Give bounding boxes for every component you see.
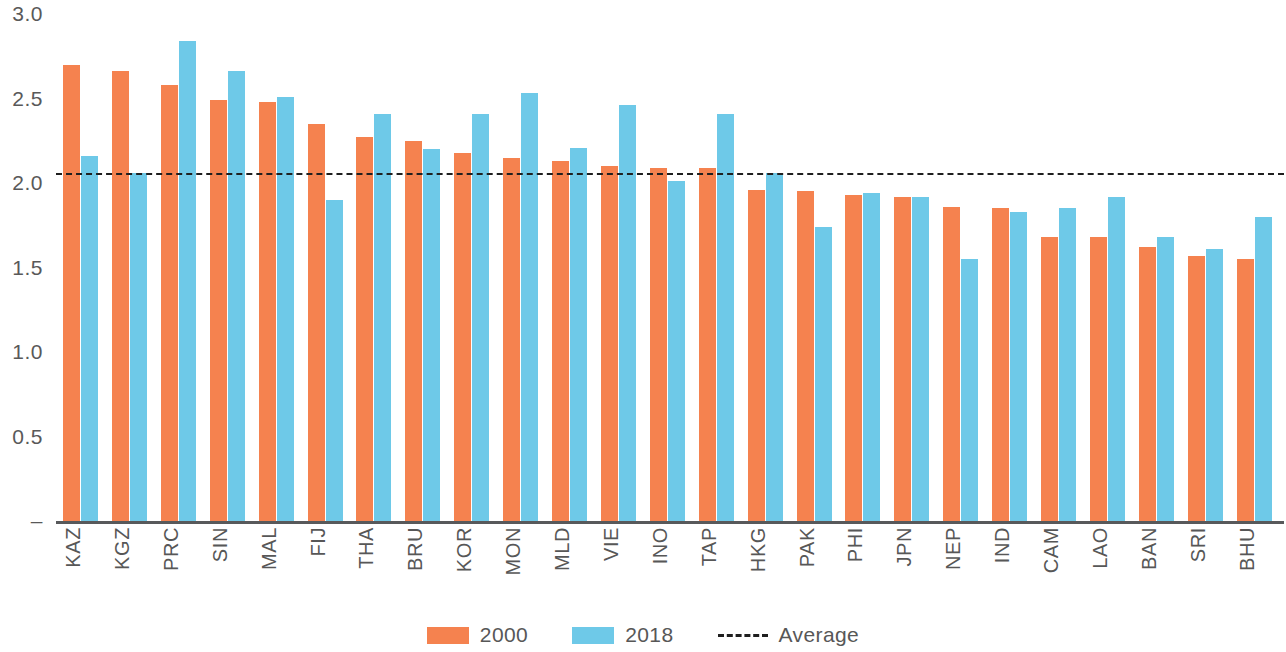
bar-jpn-2000 <box>894 197 911 521</box>
plot-area <box>56 14 1282 521</box>
x-tick-label-mon: MON <box>502 527 537 575</box>
bar-cam-2000 <box>1041 237 1058 521</box>
y-tick-label: 2.0 <box>12 171 43 195</box>
bar-tap-2000 <box>699 168 716 521</box>
y-tick-label: 0.5 <box>12 425 43 449</box>
bar-ind-2000 <box>992 208 1009 521</box>
bar-tha-2000 <box>356 137 373 521</box>
bar-ino-2018 <box>668 181 685 521</box>
legend-label-average: Average <box>779 623 860 647</box>
bar-ino-2000 <box>650 168 667 521</box>
bar-vie-2018 <box>619 105 636 521</box>
bar-kor-2000 <box>454 153 471 521</box>
x-tick-label-nep: NEP <box>942 527 977 570</box>
bar-pak-2000 <box>797 191 814 521</box>
x-tick-label-ban: BAN <box>1138 527 1173 570</box>
x-tick-label-cam: CAM <box>1040 527 1075 573</box>
x-tick-label-jpn: JPN <box>893 527 928 567</box>
bar-cam-2018 <box>1059 208 1076 521</box>
x-tick-label-ind: IND <box>991 527 1026 563</box>
y-tick-label: 3.0 <box>12 2 43 26</box>
bar-mon-2000 <box>503 158 520 521</box>
bar-phi-2000 <box>845 195 862 521</box>
bar-nep-2018 <box>961 259 978 521</box>
legend-label-2018: 2018 <box>625 623 673 647</box>
x-tick-label-kaz: KAZ <box>62 527 97 568</box>
legend-swatch-2018-icon <box>572 627 614 644</box>
x-tick-label-bru: BRU <box>404 527 439 571</box>
bar-hkg-2000 <box>748 190 765 521</box>
x-tick-label-prc: PRC <box>160 527 195 571</box>
legend-item-2000: 2000 <box>427 623 528 647</box>
x-tick-label-sri: SRI <box>1187 527 1222 562</box>
average-reference-line <box>56 173 1284 175</box>
bar-sri-2018 <box>1206 249 1223 521</box>
bar-kaz-2018 <box>81 156 98 521</box>
x-tick-label-vie: VIE <box>600 527 635 561</box>
bar-mal-2018 <box>277 97 294 521</box>
x-axis-line <box>56 521 1284 524</box>
x-tick-label-phi: PHI <box>844 527 879 562</box>
chart-legend: 2000 2018 Average <box>0 618 1286 652</box>
x-axis-labels: KAZKGZPRCSINMALFIJTHABRUKORMONMLDVIEINOT… <box>56 527 1282 607</box>
bar-phi-2018 <box>863 193 880 521</box>
bar-ban-2018 <box>1157 237 1174 521</box>
bar-prc-2018 <box>179 41 196 521</box>
x-tick-label-fij: FIJ <box>307 527 342 557</box>
legend-item-2018: 2018 <box>572 623 673 647</box>
y-tick-label: 1.5 <box>12 256 43 280</box>
y-tick-label: 1.0 <box>12 340 43 364</box>
bar-mld-2000 <box>552 161 569 521</box>
y-tick-label: – <box>31 509 43 533</box>
x-tick-label-pak: PAK <box>796 527 831 567</box>
x-tick-label-kgz: KGZ <box>111 527 146 570</box>
y-axis: 3.02.52.01.51.00.5– <box>0 0 56 652</box>
bar-nep-2000 <box>943 207 960 521</box>
x-tick-label-ino: INO <box>649 527 684 564</box>
bar-kgz-2000 <box>112 71 129 521</box>
bar-mal-2000 <box>259 102 276 521</box>
bar-chart: 3.02.52.01.51.00.5– KAZKGZPRCSINMALFIJTH… <box>0 0 1286 652</box>
y-tick-label: 2.5 <box>12 87 43 111</box>
bar-lao-2018 <box>1108 197 1125 521</box>
x-tick-label-hkg: HKG <box>747 527 782 572</box>
bar-fij-2018 <box>326 200 343 521</box>
bar-lao-2000 <box>1090 237 1107 521</box>
x-tick-label-sin: SIN <box>209 527 244 562</box>
legend-dashed-line-icon <box>718 634 768 637</box>
bar-bru-2018 <box>423 149 440 521</box>
bar-mld-2018 <box>570 148 587 521</box>
x-tick-label-lao: LAO <box>1089 527 1124 569</box>
legend-label-2000: 2000 <box>480 623 528 647</box>
bar-hkg-2018 <box>766 173 783 521</box>
x-tick-label-mal: MAL <box>258 527 293 570</box>
x-tick-label-tap: TAP <box>698 527 733 566</box>
bar-vie-2000 <box>601 166 618 521</box>
legend-item-average: Average <box>718 623 860 647</box>
legend-swatch-2000-icon <box>427 627 469 644</box>
bar-mon-2018 <box>521 93 538 521</box>
bar-prc-2000 <box>161 85 178 521</box>
x-tick-label-tha: THA <box>355 527 390 569</box>
bar-sin-2000 <box>210 100 227 521</box>
bar-ban-2000 <box>1139 247 1156 521</box>
bar-jpn-2018 <box>912 197 929 521</box>
bar-kaz-2000 <box>63 65 80 521</box>
bar-sri-2000 <box>1188 256 1205 521</box>
x-tick-label-kor: KOR <box>453 527 488 572</box>
bar-pak-2018 <box>815 227 832 521</box>
bar-ind-2018 <box>1010 212 1027 521</box>
bar-kgz-2018 <box>130 173 147 521</box>
bar-bhu-2000 <box>1237 259 1254 521</box>
x-tick-label-mld: MLD <box>551 527 586 571</box>
x-tick-label-bhu: BHU <box>1236 527 1271 571</box>
bar-bhu-2018 <box>1255 217 1272 521</box>
bar-sin-2018 <box>228 71 245 521</box>
bar-bru-2000 <box>405 141 422 521</box>
bar-fij-2000 <box>308 124 325 521</box>
